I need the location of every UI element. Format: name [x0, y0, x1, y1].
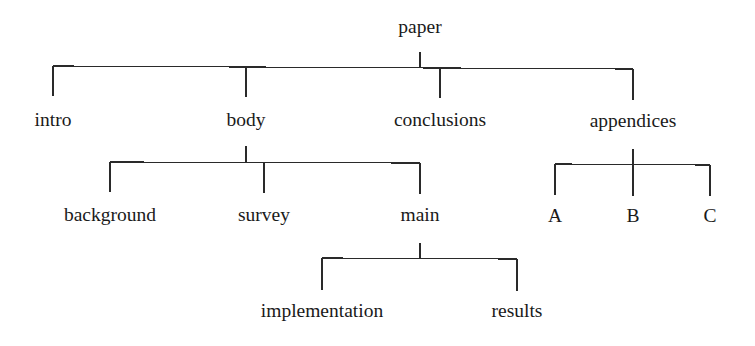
connector-appendices	[555, 149, 710, 196]
node-appendix-b: B	[626, 205, 639, 226]
node-appendix-a: A	[548, 205, 562, 226]
node-intro: intro	[35, 109, 72, 130]
node-conclusions: conclusions	[394, 109, 486, 130]
connector-main	[322, 243, 517, 291]
node-main: main	[401, 204, 440, 225]
node-appendices: appendices	[590, 110, 677, 131]
tree-diagram: paper intro body conclusions appendices …	[0, 0, 755, 346]
node-survey: survey	[238, 204, 290, 225]
node-appendix-c: C	[703, 205, 716, 226]
connector-body	[110, 146, 420, 194]
node-results: results	[492, 300, 543, 321]
node-paper: paper	[398, 16, 442, 37]
node-implementation: implementation	[261, 300, 384, 321]
connector-paper	[53, 52, 633, 100]
node-background: background	[64, 204, 156, 225]
node-body: body	[227, 109, 266, 130]
